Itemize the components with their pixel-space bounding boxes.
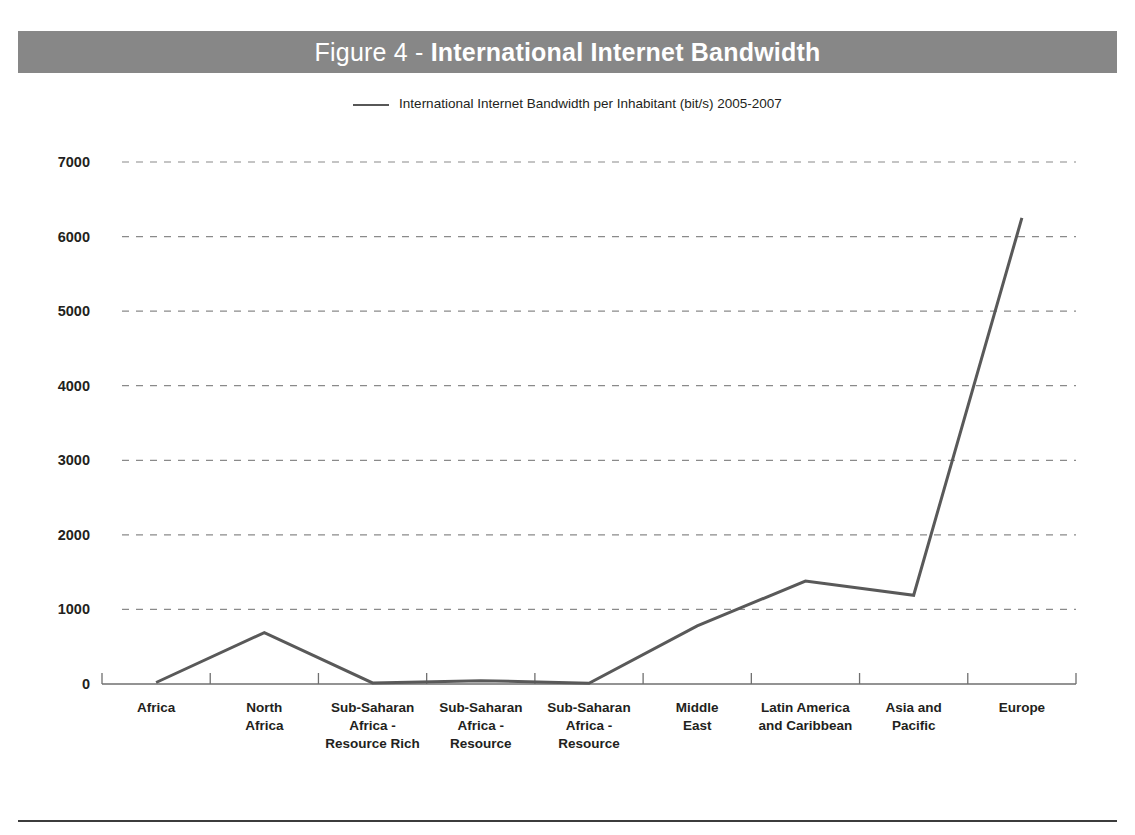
x-axis-tick-label: Sub-SaharanAfrica -ResourceScarceCoastal [439,700,522,750]
gridlines-group [122,162,1076,609]
series-line [156,218,1022,683]
x-axis-tick-labels: AfricaNorthAfricaSub-SaharanAfrica -Reso… [137,700,1046,750]
figure-title-prefix: Figure 4 - [315,38,431,66]
y-axis-tick-label: 0 [82,676,90,692]
y-axis-tick-label: 7000 [58,154,90,170]
y-axis-tick-label: 2000 [58,527,90,543]
figure-title-bar: Figure 4 - International Internet Bandwi… [18,31,1117,73]
chart-plot-area: 70006000500040003000200010000 AfricaNort… [0,130,1135,750]
x-axis-tick-label: Europe [999,700,1046,715]
x-axis-tick-label: Latin Americaand Caribbean [759,700,853,733]
y-axis-tick-label: 1000 [58,601,90,617]
y-axis-tick-labels: 70006000500040003000200010000 [58,154,90,692]
x-axis-tick-label: Sub-SaharanAfrica -Resource Rich [325,700,420,750]
page-title: Figure 4 - International Internet Bandwi… [315,38,821,67]
y-axis-tick-label: 6000 [58,229,90,245]
figure-title-main: International Internet Bandwidth [431,38,821,66]
x-axis-tick-label: MiddleEast [676,700,719,733]
x-axis-tick-label: Sub-SaharanAfrica -ResourceScarceLandloc… [547,700,630,750]
footer-divider [18,820,1117,822]
x-axis-tick-label: Asia andPacific [886,700,942,733]
x-axis-tick-label: NorthAfrica [245,700,284,733]
y-axis-tick-label: 5000 [58,303,90,319]
chart-legend: International Internet Bandwidth per Inh… [0,96,1135,111]
y-axis-tick-label: 3000 [58,452,90,468]
y-axis-tick-label: 4000 [58,378,90,394]
x-axis-tick-label: Africa [137,700,176,715]
legend-line-swatch-icon [353,104,389,106]
line-chart-svg: 70006000500040003000200010000 AfricaNort… [0,130,1135,750]
data-series-group [156,218,1022,683]
legend-item-label: International Internet Bandwidth per Inh… [399,96,782,111]
